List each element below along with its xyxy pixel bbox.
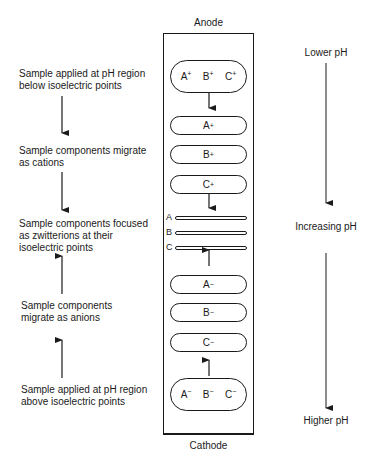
sample-pill-bottom: A− B− C−: [170, 378, 247, 411]
focused-band-a: [175, 216, 247, 220]
annotation-line: Sample components focused: [19, 218, 148, 230]
species-label: B+: [203, 71, 214, 82]
annotation-line: Sample components: [21, 300, 112, 312]
species-label: A−: [181, 389, 192, 400]
annotation-migrate-anions: Sample components migrate as anions: [21, 300, 112, 324]
annotation-line: Sample components migrate: [19, 145, 146, 157]
anion-pill-a: A−: [170, 275, 247, 294]
annotation-applied-below: Sample applied at pH region below isoele…: [19, 68, 145, 92]
annotation-line: Sample applied at pH region: [21, 384, 147, 396]
anode-label: Anode: [163, 17, 254, 29]
annotation-line: above isoelectric points: [21, 396, 147, 408]
species-label: A+: [181, 71, 192, 82]
annotation-line: below isoelectric points: [19, 80, 145, 92]
annotation-line: as zwitterions at their: [19, 230, 148, 242]
cation-pill-b: B+: [170, 145, 247, 164]
cation-pill-a: A+: [170, 116, 247, 135]
focused-band-c: [175, 246, 247, 250]
sample-pill-top: A+ B+ C+: [170, 60, 247, 93]
label-increasing-ph: Increasing pH: [286, 221, 366, 233]
label-lower-ph: Lower pH: [286, 47, 366, 59]
species-label: C−: [225, 389, 236, 400]
focused-band-b: [175, 231, 247, 235]
annotation-line: migrate as anions: [21, 312, 112, 324]
label-higher-ph: Higher pH: [286, 415, 366, 427]
cathode-label: Cathode: [163, 440, 254, 452]
annotation-focused-zwitterions: Sample components focused as zwitterions…: [19, 218, 148, 254]
annotation-migrate-cations: Sample components migrate as cations: [19, 145, 146, 169]
band-label-b: B: [166, 227, 172, 237]
annotation-line: Sample applied at pH region: [19, 68, 145, 80]
annotation-line: isoelectric points: [19, 242, 148, 254]
species-label: C+: [225, 71, 236, 82]
band-label-c: C: [166, 242, 173, 252]
anion-pill-c: C−: [170, 333, 247, 352]
annotation-applied-above: Sample applied at pH region above isoele…: [21, 384, 147, 408]
anion-pill-b: B−: [170, 303, 247, 322]
cation-pill-c: C+: [170, 175, 247, 194]
band-label-a: A: [166, 212, 172, 222]
annotation-line: as cations: [19, 157, 146, 169]
species-label: B−: [203, 389, 214, 400]
